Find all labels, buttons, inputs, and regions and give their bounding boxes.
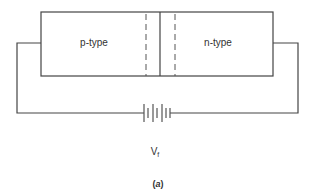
p-type-label: p-type bbox=[80, 37, 108, 48]
voltage-label: Vf bbox=[151, 146, 160, 158]
left-wire bbox=[17, 43, 144, 113]
battery-icon bbox=[144, 104, 170, 122]
pn-junction-diagram: p-type n-type Vf (a) bbox=[0, 0, 312, 196]
right-wire bbox=[170, 43, 298, 113]
figure-caption: (a) bbox=[152, 179, 163, 189]
n-type-label: n-type bbox=[204, 37, 232, 48]
junction-body bbox=[41, 12, 273, 76]
